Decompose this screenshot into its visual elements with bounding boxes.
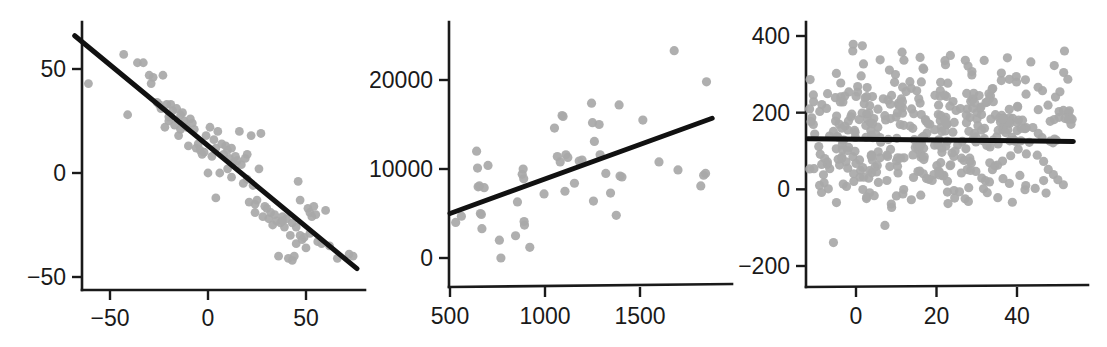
y-tick-label: 0 [420,245,433,271]
scatter-point [919,65,928,74]
scatter-point [701,169,710,178]
scatter-point [955,187,964,196]
scatter-point [829,127,838,136]
y-tick-label: 400 [752,23,790,49]
scatter-point [817,160,826,169]
scatter-point [981,176,990,185]
scatter-point [1006,151,1015,160]
scatter-point [867,152,876,161]
scatter-point [983,188,992,197]
x-tick-label: 40 [1004,303,1030,329]
scatter-point [993,193,1002,202]
scatter-point [934,101,943,110]
scatter-point [311,210,320,219]
scatter-point [839,179,848,188]
scatter-point [946,160,955,169]
scatter-point [1018,116,1027,125]
panel-3-svg: 02040−2000200400 [738,0,1107,347]
scatter-point [941,60,950,69]
scatter-point [881,115,890,124]
scatter-point [873,105,882,114]
scatter-point [213,127,222,136]
scatter-point [969,89,978,98]
panel-1-svg: −50050−50050 [0,0,370,347]
scatter-point [819,170,828,179]
scatter-point [296,196,305,205]
scatter-point [247,131,256,140]
scatter-point [702,77,711,86]
scatter-point [590,137,599,146]
scatter-point [948,128,957,137]
y-tick-label: 20000 [370,67,433,93]
scatter-point [930,125,939,134]
y-tick-label: 50 [40,56,66,82]
scatter-point [539,189,548,198]
scatter-point [309,202,318,211]
scatter-point [816,150,825,159]
scatter-point [832,111,841,120]
x-tick-label: 1500 [614,303,665,329]
scatter-point [1008,198,1017,207]
scatter-point [1034,83,1043,92]
scatter-point [836,97,845,106]
scatter-point [896,153,905,162]
scatter-point [880,221,889,230]
scatter-point [838,145,847,154]
scatter-point [673,165,682,174]
scatter-point [477,224,486,233]
scatter-point [253,196,262,205]
y-tick-label: 0 [53,160,66,186]
scatter-point [916,191,925,200]
scatter-point [617,172,626,181]
scatter-point [274,252,283,261]
three-panel-scatter-figure: −50050−50050 5001000150001000020000 0204… [0,0,1107,347]
scatter-point [1034,129,1043,138]
scatter-point [970,98,979,107]
scatter-point [898,189,907,198]
scatter-point [1026,57,1035,66]
scatter-point [980,56,989,65]
scatter-point [139,58,148,67]
scatter-point [615,100,624,109]
scatter-point [321,206,330,215]
scatter-point [496,253,505,262]
scatter-point [480,183,489,192]
scatter-point [1034,105,1043,114]
scatter-point [1020,185,1029,194]
scatter-point [836,78,845,87]
scatter-point [834,155,843,164]
scatter-point [495,236,504,245]
scatter-point [850,147,859,156]
scatter-point [560,187,569,196]
scatter-point [855,155,864,164]
scatter-point [1059,68,1068,77]
scatter-point [909,173,918,182]
panel-3-fit-line [808,139,1074,142]
scatter-point [1060,46,1069,55]
scatter-point [967,159,976,168]
x-tick-label: 20 [924,303,950,329]
scatter-point [227,173,236,182]
scatter-point [654,157,663,166]
scatter-point [806,117,815,126]
scatter-point [302,243,311,252]
scatter-point [928,176,937,185]
scatter-point [1033,151,1042,160]
scatter-point [123,110,132,119]
scatter-point [853,82,862,91]
scatter-point [864,109,873,118]
y-tick-label: −50 [27,264,66,290]
scatter-point [550,123,559,132]
x-tick-label: 500 [431,303,469,329]
scatter-point [935,92,944,101]
scatter-point [290,252,299,261]
panel-1-fit-line [75,36,357,269]
scatter-point [951,106,960,115]
scatter-point [1021,75,1030,84]
scatter-point [874,178,883,187]
scatter-point [849,40,858,49]
panel-1-ticks [72,69,306,300]
scatter-point [1013,103,1022,112]
panel-2-x-axis [449,284,732,287]
scatter-point [251,208,260,217]
